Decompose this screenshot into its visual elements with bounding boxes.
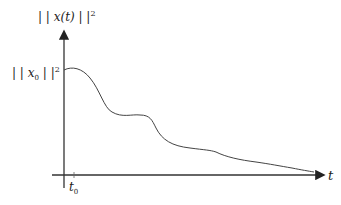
initial-value-label: | | x0 | |2 [12, 65, 60, 82]
y-axis-label: | | x(t) | |2 [38, 9, 95, 24]
x-axis-label: t [328, 168, 334, 183]
energy-decay-diagram: | | x(t) | |2 | | x0 | |2 t t0 [0, 0, 341, 205]
t0-label: t0 [69, 180, 78, 196]
energy-curve [64, 68, 314, 172]
